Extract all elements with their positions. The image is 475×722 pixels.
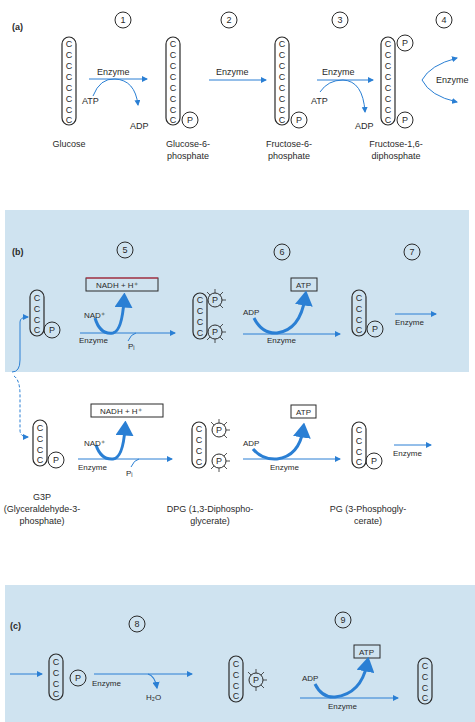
svg-text:ATP: ATP [296,281,311,290]
svg-text:C: C [66,94,73,104]
svg-text:C: C [279,61,286,71]
svg-text:P: P [187,115,193,125]
svg-text:P: P [212,327,218,337]
svg-text:9: 9 [340,615,345,625]
svg-text:C: C [279,39,286,49]
svg-text:C: C [197,306,204,316]
svg-text:C: C [385,61,392,71]
svg-text:C: C [197,317,204,327]
pep-molecule: CCCC P [229,656,267,702]
svg-text:C: C [356,425,363,435]
svg-text:8: 8 [134,619,139,629]
svg-text:C: C [356,325,363,335]
svg-text:ADP: ADP [355,121,374,131]
glucose-molecule: CCC CCC CC [62,37,76,125]
svg-text:Enzyme: Enzyme [328,702,357,711]
branch-connector-upper [12,317,28,372]
step-2-marker: 2 [221,12,237,28]
step-1-marker: 1 [115,12,131,28]
svg-text:C: C [196,457,203,467]
svg-text:C: C [385,105,392,115]
svg-text:4: 4 [441,15,446,25]
svg-text:Enzyme: Enzyme [216,67,249,77]
caption-g6p: Glucose-6- [166,139,210,149]
svg-text:C: C [279,83,286,93]
atp-adp-arrow [93,79,138,105]
panel-a-label: (a) [12,22,23,32]
svg-text:NAD⁺: NAD⁺ [84,311,105,320]
svg-text:NADH + H⁺: NADH + H⁺ [96,281,138,290]
svg-text:C: C [53,689,60,699]
atp-label: ATP [82,96,99,106]
caption-dpg: DPG (1,3-Diphospho- [167,504,254,514]
svg-text:C: C [170,39,177,49]
dpg-molecule-upper: CCCC P P [193,289,226,343]
step-9-marker: 9 [335,612,351,628]
svg-text:C: C [385,50,392,60]
svg-text:ADP: ADP [302,674,318,683]
svg-text:phosphate): phosphate) [19,516,64,526]
fructose-6-phosphate-molecule: CCC CCC CC P [275,37,307,128]
svg-text:P: P [53,455,59,465]
svg-text:Enzyme: Enzyme [267,336,296,345]
svg-text:C: C [385,39,392,49]
svg-text:C: C [34,325,41,335]
svg-text:C: C [170,94,177,104]
svg-text:C: C [279,94,286,104]
nadh-product-box-lower: NADH + H⁺ [91,404,163,417]
svg-text:7: 7 [409,247,414,257]
svg-text:P: P [212,295,218,305]
svg-text:C: C [66,72,73,82]
dpg-molecule-lower: CCCC P P [192,419,230,472]
svg-text:C: C [422,693,429,703]
svg-text:P: P [49,325,55,335]
svg-text:C: C [356,457,363,467]
svg-text:C: C [197,328,204,338]
panel-b-label: (b) [12,247,24,257]
svg-text:NADH + H⁺: NADH + H⁺ [100,407,142,416]
svg-text:P: P [75,673,81,683]
g3p-molecule-upper: CCCC P [30,290,60,338]
atp-product-box-lower: ATP [291,405,316,418]
panel-c-label: (c) [10,621,21,631]
svg-text:C: C [196,446,203,456]
svg-text:2: 2 [226,15,231,25]
nadh-product-box-upper: NADH + H⁺ [86,278,158,291]
svg-text:6: 6 [279,247,284,257]
svg-text:C: C [422,672,429,682]
svg-text:C: C [356,436,363,446]
step-3-marker: 3 [332,12,348,28]
step-7-marker: 7 [404,244,420,260]
h2o-label: H₂O [146,693,161,702]
svg-text:C: C [37,455,44,465]
svg-text:C: C [170,61,177,71]
svg-text:C: C [37,434,44,444]
svg-text:C: C [356,447,363,457]
svg-text:C: C [279,115,286,125]
svg-text:C: C [34,315,41,325]
svg-text:C: C [196,424,203,434]
svg-text:1: 1 [120,15,125,25]
branch-connector-lower [14,376,28,437]
svg-text:C: C [385,115,392,125]
svg-text:ATP: ATP [296,408,311,417]
svg-text:P: P [253,675,259,685]
step-4-marker: 4 [436,12,452,28]
svg-text:Enzyme: Enzyme [270,463,299,472]
svg-text:C: C [66,39,73,49]
svg-text:Enzyme: Enzyme [92,679,121,688]
svg-text:C: C [170,50,177,60]
svg-text:Enzyme: Enzyme [436,75,469,85]
svg-text:P: P [402,38,408,48]
svg-text:C: C [34,293,41,303]
svg-text:P: P [216,425,222,435]
svg-text:3: 3 [337,15,342,25]
caption-f6p: Fructose-6- [266,139,312,149]
svg-text:C: C [422,683,429,693]
svg-text:C: C [170,72,177,82]
svg-text:Enzyme: Enzyme [78,463,107,472]
step-8-marker: 8 [129,616,145,632]
svg-text:C: C [233,670,240,680]
svg-text:C: C [66,105,73,115]
caption-glucose: Glucose [52,139,85,149]
